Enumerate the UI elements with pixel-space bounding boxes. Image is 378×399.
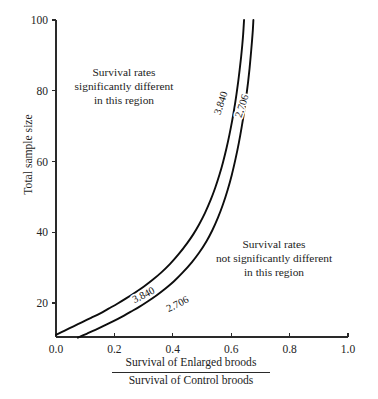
annotation-line: Survival rates: [56, 66, 192, 80]
y-axis-label-text: Total sample size: [22, 114, 35, 194]
x-tick-label: 0.2: [107, 343, 122, 355]
y-axis-label: Total sample size: [22, 80, 35, 230]
x-tick-label: 0.4: [166, 343, 181, 355]
plot-area: 3.8403.8402.7062.7063.8403.8402.7062.706…: [0, 0, 378, 399]
x-axis-label-denominator: Survival of Control broods: [96, 374, 286, 389]
curve-label-2-706: 2.706: [164, 294, 190, 315]
x-tick-label: 0.8: [282, 343, 297, 355]
x-tick-label: 1.0: [341, 343, 356, 355]
y-tick-label: 100: [31, 14, 49, 26]
annotation-line: in this region: [56, 94, 192, 108]
fraction-bar: [112, 372, 270, 373]
chart-figure: 3.8403.8402.7062.7063.8403.8402.7062.706…: [0, 0, 378, 399]
annotation-line: in this region: [196, 266, 352, 280]
annotation-line: Survival rates: [196, 238, 352, 252]
curve-label-3-840: 3.840: [212, 90, 230, 116]
annotation-line: significantly different: [56, 80, 192, 94]
x-tick-label: 0.0: [49, 343, 64, 355]
annotation-significant-region: Survival rates significantly different i…: [56, 66, 192, 108]
x-tick-label: 0.6: [224, 343, 239, 355]
y-tick-label: 40: [37, 226, 49, 238]
x-axis-label-numerator: Survival of Enlarged broods: [96, 356, 286, 371]
y-tick-label: 60: [37, 156, 49, 168]
annotation-not-significant-region: Survival rates not significantly differe…: [196, 238, 352, 280]
annotation-line: not significantly different: [196, 252, 352, 266]
curve-label-3-840: 3.840: [130, 285, 156, 306]
y-tick-label: 80: [37, 85, 49, 97]
x-axis-label: Survival of Enlarged broods Survival of …: [96, 356, 286, 388]
y-tick-label: 20: [37, 297, 49, 309]
